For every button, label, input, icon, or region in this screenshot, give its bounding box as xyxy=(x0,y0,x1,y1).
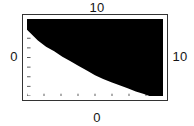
axis-label-bottom: 0 xyxy=(0,111,194,124)
axis-label-top: 10 xyxy=(0,1,194,14)
plot-frame xyxy=(22,14,168,101)
axis-label-left: 0 xyxy=(6,50,22,63)
axis-label-right: 10 xyxy=(168,50,192,63)
region-plot-svg xyxy=(27,19,163,96)
region-plot-figure: 10 0 10 0 xyxy=(0,0,194,126)
plot-area xyxy=(27,19,163,96)
